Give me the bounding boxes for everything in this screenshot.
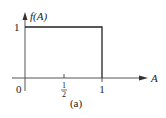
density-curve — [25, 27, 102, 78]
uniform-density-chart: f(A) 1 A 0 1 2 1 (a) — [0, 0, 166, 118]
x-axis-label: A — [150, 72, 158, 84]
x-tick-label-1: 1 — [99, 83, 105, 95]
origin-label: 0 — [16, 83, 22, 95]
x-tick-half-denominator: 2 — [62, 90, 66, 99]
y-axis-arrow-icon — [23, 12, 28, 20]
y-axis-label: f(A) — [30, 10, 47, 23]
caption: (a) — [70, 97, 83, 110]
y-tick-label-1: 1 — [14, 21, 20, 33]
x-axis-arrow-icon — [139, 76, 148, 81]
x-tick-half-numerator: 1 — [62, 81, 66, 90]
